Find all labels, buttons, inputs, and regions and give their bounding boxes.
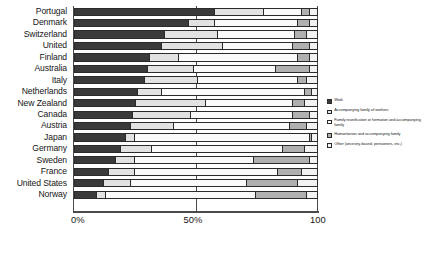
bar-segment — [133, 112, 191, 118]
bar-segment — [109, 169, 136, 175]
table-row — [74, 63, 318, 74]
y-axis-label: Italy — [0, 75, 70, 86]
bar-segment — [310, 66, 317, 72]
bar-segment — [312, 89, 317, 95]
bar-segment — [75, 77, 145, 83]
bar-segment — [116, 157, 135, 163]
bar-segment — [310, 54, 317, 60]
table-row — [74, 17, 318, 28]
y-axis-label: Netherlands — [0, 86, 70, 97]
bar-segment — [194, 66, 276, 72]
legend-label: Humanitarian and accompanying family — [334, 132, 400, 137]
stacked-bar — [74, 65, 318, 73]
bar-segment — [106, 192, 256, 198]
bar-segment — [148, 66, 194, 72]
bar-segment — [298, 77, 308, 83]
table-row — [74, 155, 318, 166]
bar-segment — [290, 123, 307, 129]
bar-segment — [293, 100, 305, 106]
x-axis-tick-label: 0% — [71, 214, 85, 225]
table-row — [74, 29, 318, 40]
bar-segment — [135, 134, 309, 140]
bar-segment — [75, 146, 121, 152]
bar-segment — [254, 157, 310, 163]
bar-segment — [162, 43, 223, 49]
bar-segment — [305, 89, 312, 95]
y-axis-label: Norway — [0, 189, 70, 200]
stacked-bar — [74, 8, 318, 16]
bar-segment — [179, 54, 298, 60]
bar-segment — [75, 89, 138, 95]
bar-segment — [295, 31, 307, 37]
bar-segment — [298, 180, 317, 186]
bar-segment — [174, 123, 290, 129]
table-row — [74, 109, 318, 120]
bar-segment — [75, 192, 97, 198]
y-axis-category-labels: PortugalDenmarkSwitzerlandUnitedFinlandA… — [0, 6, 70, 200]
table-row — [74, 6, 318, 17]
table-row — [74, 120, 318, 131]
stacked-bar — [74, 30, 318, 38]
table-row — [74, 189, 318, 200]
legend-label: Accompanying family of workers — [334, 108, 388, 113]
bar-segment — [75, 112, 133, 118]
y-axis-label: New Zealand — [0, 98, 70, 109]
plot-area — [73, 6, 318, 211]
legend-item: Other (ancestry-based, pensioners, etc.) — [327, 142, 431, 148]
bar-segment — [75, 54, 150, 60]
stacked-bar — [74, 179, 318, 187]
bar-segment — [298, 54, 310, 60]
y-axis-label: United States — [0, 178, 70, 189]
stacked-bar — [74, 42, 318, 50]
bar-segment — [264, 9, 303, 15]
stacked-bar-chart: PortugalDenmarkSwitzerlandUnitedFinlandA… — [0, 0, 431, 257]
bar-segment — [138, 89, 162, 95]
stacked-bar — [74, 19, 318, 27]
legend-swatch-icon — [327, 120, 332, 125]
table-row — [74, 132, 318, 143]
stacked-bar — [74, 122, 318, 130]
table-row — [74, 75, 318, 86]
y-axis-label: Austria — [0, 120, 70, 131]
y-axis-label: Germany — [0, 143, 70, 154]
bar-segment — [135, 157, 254, 163]
bar-segment — [310, 20, 317, 26]
table-row — [74, 98, 318, 109]
bar-segment — [97, 192, 107, 198]
bar-segment — [298, 20, 310, 26]
bar-segment — [198, 77, 297, 83]
bar-segment — [136, 100, 206, 106]
legend-item: Family reunification or formation and ac… — [327, 118, 431, 127]
stacked-bar — [74, 53, 318, 61]
bar-segment — [247, 180, 298, 186]
stacked-bar — [74, 99, 318, 107]
bar-segment — [215, 9, 263, 15]
bar-segment — [165, 31, 218, 37]
bar-segment — [305, 146, 317, 152]
bar-segment — [307, 77, 317, 83]
legend-swatch-icon — [327, 110, 332, 115]
table-row — [74, 52, 318, 63]
bar-segment — [283, 146, 305, 152]
bar-segment — [75, 43, 162, 49]
x-axis-line — [73, 211, 319, 213]
bar-segment — [189, 20, 216, 26]
x-axis-tick-label: 100 — [310, 214, 326, 225]
bar-segment — [75, 169, 109, 175]
bar-segment — [310, 43, 317, 49]
legend-item: Humanitarian and accompanying family — [327, 132, 431, 138]
y-axis-label: Japan — [0, 132, 70, 143]
stacked-bar — [74, 156, 318, 164]
bar-segment — [293, 112, 310, 118]
legend-item: Accompanying family of workers — [327, 108, 431, 114]
bar-segment — [305, 100, 317, 106]
bar-segment — [310, 112, 317, 118]
bar-segment — [312, 134, 317, 140]
x-axis-tick-labels: 0%50%100 — [0, 214, 431, 230]
bar-segment — [206, 100, 293, 106]
bar-segment — [75, 157, 116, 163]
bar-segment — [131, 123, 175, 129]
bar-rows — [74, 6, 318, 211]
bar-segment — [131, 180, 247, 186]
stacked-bar — [74, 76, 318, 84]
